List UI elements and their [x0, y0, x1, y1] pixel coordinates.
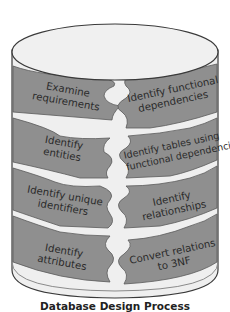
database-design-diagram: Examine requirements Identify entities I… — [0, 0, 230, 312]
diagram-caption: Database Design Process — [0, 300, 230, 312]
